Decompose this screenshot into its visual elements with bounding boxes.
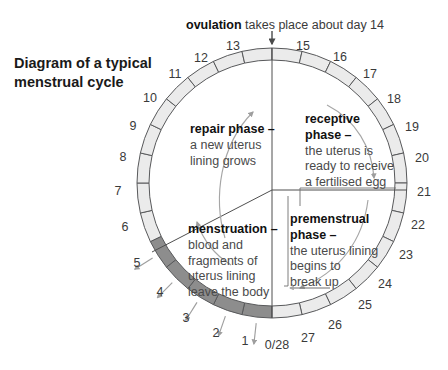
day-label-19: 19 bbox=[405, 121, 419, 134]
day-label-3: 3 bbox=[183, 312, 190, 325]
day-label-20: 20 bbox=[415, 152, 429, 165]
day-label-9: 9 bbox=[130, 120, 137, 133]
phase-label-menstruation: menstruation – blood and fragments of ut… bbox=[188, 222, 286, 301]
day-segment-27 bbox=[299, 294, 330, 315]
day-segment-1 bbox=[242, 303, 272, 318]
day-label-1: 1 bbox=[242, 335, 249, 348]
day-label-24: 24 bbox=[378, 278, 392, 291]
phase-body-menstruation: blood and fragments of uterus lining lea… bbox=[188, 238, 286, 301]
phase-title-menstruation: menstruation – bbox=[188, 222, 286, 238]
flow-arrow-day-1 bbox=[254, 323, 256, 344]
diagram-canvas: Diagram of a typical menstrual cycle ovu… bbox=[0, 0, 448, 370]
phase-title-premenstrual: premenstrual phase – bbox=[290, 212, 390, 244]
phase-title-repair: repair phase – bbox=[190, 122, 288, 138]
day-segment-12 bbox=[188, 61, 219, 86]
phase-body-repair: a new uterus lining grows bbox=[190, 138, 288, 170]
flow-arrow-day-2 bbox=[219, 316, 226, 336]
ovulation-caption-rest: takes place about day 14 bbox=[242, 18, 384, 32]
day-label-12: 12 bbox=[194, 52, 208, 65]
day-label-5: 5 bbox=[134, 257, 141, 270]
day-segment-13 bbox=[213, 51, 244, 72]
day-segment-16 bbox=[299, 51, 330, 72]
day-label-17: 17 bbox=[363, 68, 377, 81]
day-segment-5 bbox=[150, 236, 175, 267]
day-segment-9 bbox=[140, 124, 161, 155]
page-title: Diagram of a typical menstrual cycle bbox=[14, 54, 174, 91]
day-segment-28 bbox=[272, 303, 302, 318]
phase-label-receptive: receptive phase – the uterus is ready to… bbox=[305, 112, 410, 191]
day-label-18: 18 bbox=[387, 93, 401, 106]
day-label-4: 4 bbox=[157, 286, 164, 299]
day-segment-14 bbox=[242, 48, 272, 63]
phase-label-repair: repair phase – a new uterus lining grows bbox=[190, 122, 288, 169]
day-label-16: 16 bbox=[333, 51, 347, 64]
day-label-8: 8 bbox=[120, 151, 127, 164]
day-label-11: 11 bbox=[169, 68, 182, 81]
day-label-23: 23 bbox=[399, 249, 413, 262]
day-segment-8 bbox=[137, 153, 152, 183]
day-label-26: 26 bbox=[328, 319, 342, 332]
phase-body-premenstrual: the uterus lining begins to break up bbox=[290, 244, 390, 291]
phase-body-receptive: the uterus is ready to receive a fertili… bbox=[305, 144, 410, 191]
day-label-0-28: 0/28 bbox=[265, 339, 289, 352]
day-label-2: 2 bbox=[213, 327, 220, 340]
day-label-25: 25 bbox=[358, 299, 372, 312]
day-label-15: 15 bbox=[296, 40, 310, 53]
day-label-10: 10 bbox=[143, 92, 157, 105]
day-segment-6 bbox=[140, 210, 161, 241]
day-segment-7 bbox=[137, 183, 152, 213]
phase-label-premenstrual: premenstrual phase – the uterus lining b… bbox=[290, 212, 390, 291]
day-label-21: 21 bbox=[417, 186, 431, 199]
day-label-7: 7 bbox=[115, 185, 122, 198]
day-label-22: 22 bbox=[411, 219, 425, 232]
ovulation-caption-bold: ovulation bbox=[186, 18, 242, 32]
day-label-13: 13 bbox=[226, 40, 240, 53]
ovulation-caption: ovulation takes place about day 14 bbox=[186, 18, 384, 32]
day-label-6: 6 bbox=[122, 221, 129, 234]
phase-title-receptive: receptive phase – bbox=[305, 112, 410, 144]
day-label-27: 27 bbox=[301, 332, 315, 345]
